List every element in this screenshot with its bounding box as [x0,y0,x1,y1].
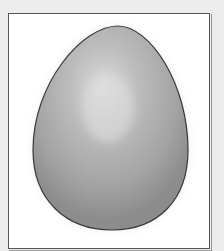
egg-highlight [82,74,134,142]
egg-illustration [0,0,224,251]
